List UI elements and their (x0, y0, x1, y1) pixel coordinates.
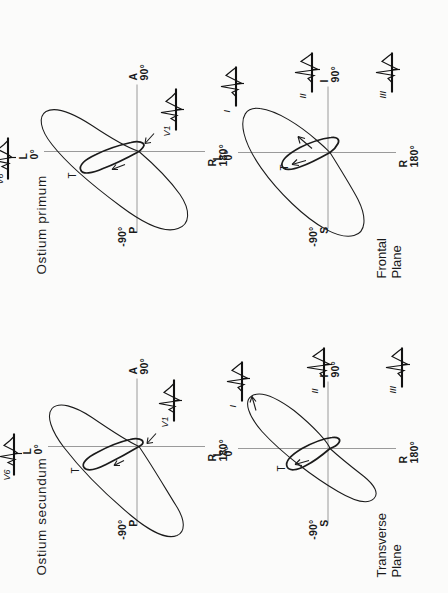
qrs-loop (243, 108, 364, 236)
axis-top-degrees: 0° (222, 150, 234, 160)
axis-label-right: I 90° (319, 361, 341, 377)
axis-label-top: L 0° (212, 446, 234, 456)
axis-label-right: A 90° (128, 64, 150, 80)
t-loop (80, 141, 144, 172)
ecg-tracing-v1 (161, 88, 184, 130)
axis-left-letter: S (318, 226, 330, 233)
axis-label-left: -90° P (117, 226, 139, 248)
ecg-lead-label-v1: V1 (160, 416, 170, 427)
rotation-arrow-t-head (292, 159, 299, 165)
axis-top-degrees: 0° (28, 149, 40, 159)
ecg-lead-label-i: I (228, 404, 238, 407)
axis-label-top: L 0° (22, 444, 44, 454)
axis-left-letter: P (127, 519, 139, 526)
axis-label-left: -90° P (117, 519, 139, 541)
panel-primum-frontal: Frontal Plane (224, 0, 448, 296)
axis-left-letter: P (127, 226, 139, 233)
ecg-tracing-lead-i (221, 66, 244, 106)
axis-label-left: -90° S (308, 519, 330, 541)
panel-primum-transverse: Ostium primum -90° P (0, 0, 224, 296)
axis-label-left: -90° S (308, 226, 330, 248)
t-loop-label: T (276, 465, 287, 471)
axis-top-degrees: 0° (32, 444, 44, 454)
t-loop-label: T (70, 467, 81, 473)
qrs-loop (248, 394, 377, 501)
panel-secundum-frontal: Transverse Plane (224, 297, 448, 593)
axis-bottom-degrees: 180° (408, 440, 420, 463)
axis-label-top: L 0° (18, 149, 40, 159)
ecg-tracing-v1 (159, 379, 182, 421)
axis-right-degrees: 90° (329, 66, 341, 82)
t-loop (83, 438, 143, 469)
t-loop-label: T (279, 164, 290, 170)
axis-label-bottom: R 180° (398, 144, 420, 167)
t-loop-label: T (67, 172, 78, 178)
axis-right-degrees: 90° (138, 358, 150, 374)
ecg-tracing-lead-iii (376, 52, 400, 92)
axis-label-right: I 90° (319, 66, 341, 82)
ecg-lead-label-ii: II (298, 93, 308, 98)
ecg-lead-label-i: I (222, 109, 232, 112)
ecg-tracing-lead-ii (295, 52, 320, 92)
axis-label-right: A 90° (128, 358, 150, 374)
vcg-plot-primum-transverse (0, 0, 224, 296)
axis-left-letter: S (318, 519, 330, 526)
axis-bottom-degrees: 180° (408, 144, 420, 167)
axis-label-bottom: R 180° (398, 440, 420, 463)
panel-secundum-transverse: Ostium secundum (0, 297, 224, 593)
t-loop (287, 437, 340, 469)
ecg-tracing-lead-i (227, 361, 250, 401)
axis-right-degrees: 90° (138, 64, 150, 80)
axis-label-top: L 0° (212, 150, 234, 160)
figure-plate: Ostium secundum (0, 0, 448, 593)
ecg-lead-label-iii: III (378, 90, 388, 98)
ecg-lead-label-iii: III (388, 385, 398, 393)
axis-right-degrees: 90° (329, 361, 341, 377)
ecg-lead-label-v1: V1 (162, 125, 172, 136)
axis-top-degrees: 0° (222, 446, 234, 456)
ecg-tracing-lead-iii (386, 347, 410, 387)
ecg-lead-label-v6: V6 (2, 469, 12, 480)
ecg-lead-label-v6: V6 (0, 173, 5, 184)
ecg-lead-label-ii: II (310, 388, 320, 393)
